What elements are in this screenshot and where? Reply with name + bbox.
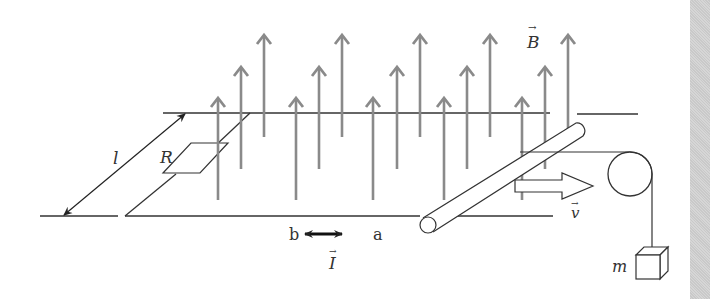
current-label: I xyxy=(328,253,336,273)
field-arrow xyxy=(460,67,474,169)
field-arrow xyxy=(257,35,271,137)
field-arrow xyxy=(312,67,326,169)
label-current: I → xyxy=(328,246,337,273)
field-arrow xyxy=(413,35,427,137)
label-velocity: v → xyxy=(571,198,580,222)
field-arrow xyxy=(483,35,497,137)
connector-lower xyxy=(125,174,176,216)
connector-upper xyxy=(215,113,250,146)
v-vector-arrow: → xyxy=(571,198,579,208)
rails xyxy=(40,113,638,216)
label-b-field: B → xyxy=(526,22,540,52)
i-vector-arrow: → xyxy=(329,246,337,256)
rod-end-cap xyxy=(420,217,436,233)
b-vector-arrow: → xyxy=(528,22,537,33)
field-arrow xyxy=(561,35,575,137)
velocity-arrow xyxy=(515,173,593,199)
point-b-label: b xyxy=(289,225,299,244)
b-field-label: B xyxy=(526,32,540,52)
point-a-label: a xyxy=(373,225,383,244)
length-label: l xyxy=(113,148,118,168)
field-arrow xyxy=(390,67,404,169)
page-edge-strip xyxy=(690,0,710,299)
resistor-label: R xyxy=(159,147,173,167)
induction-diagram: B → l R v → b a I → m xyxy=(0,0,710,299)
mass-label: m xyxy=(612,257,627,276)
mass-box xyxy=(636,247,668,279)
field-arrow xyxy=(335,35,349,137)
diagram-canvas: B → l R v → b a I → m xyxy=(0,0,710,299)
field-arrow xyxy=(234,67,248,169)
